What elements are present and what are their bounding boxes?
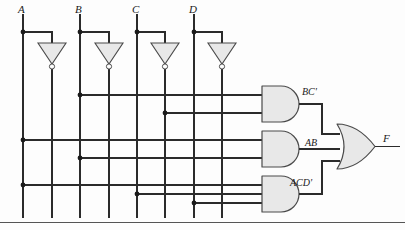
inverter-a-feed — [23, 32, 52, 43]
junction-dot — [21, 30, 26, 35]
inverter-b-icon — [95, 43, 123, 64]
input-label-b: B — [75, 4, 82, 15]
inverter-c-feed — [137, 32, 165, 43]
inverter-a-bubble-icon — [49, 64, 54, 69]
junction-dot — [135, 30, 140, 35]
logic-circuit-diagram: A B C D BC' AB ACD' F — [0, 0, 405, 230]
junction-dot — [78, 93, 83, 98]
junction-dot — [21, 183, 26, 188]
output-label-f: F — [383, 133, 390, 144]
inverter-d-feed — [194, 32, 222, 43]
junction-dot — [78, 156, 83, 161]
junction-dot — [163, 111, 168, 116]
input-label-a: A — [18, 4, 25, 15]
inverter-b-feed — [80, 32, 109, 43]
inverter-b-bubble-icon — [106, 64, 111, 69]
junction-dot — [192, 30, 197, 35]
input-label-d: D — [189, 4, 197, 15]
inverter-d-bubble-icon — [219, 64, 224, 69]
and-gate-bc-prime-body — [262, 86, 299, 122]
wire-and1-to-or — [299, 104, 340, 134]
junction-dot — [135, 192, 140, 197]
inverter-c-bubble-icon — [162, 64, 167, 69]
junction-dot — [192, 201, 197, 206]
inverter-c-icon — [151, 43, 179, 64]
and-gate-bc-prime-label: BC' — [302, 87, 317, 97]
input-label-c: C — [132, 4, 139, 15]
junction-dot — [78, 30, 83, 35]
and-gate-ab-body — [262, 131, 299, 167]
and-gate-acd-prime-label: ACD' — [290, 178, 312, 188]
circuit-canvas — [0, 0, 405, 230]
inverter-a-icon — [38, 43, 66, 64]
junction-dot — [21, 138, 26, 143]
and-gate-ab-label: AB — [305, 138, 317, 148]
or-gate-body — [337, 124, 375, 169]
inverter-d-icon — [208, 43, 236, 64]
